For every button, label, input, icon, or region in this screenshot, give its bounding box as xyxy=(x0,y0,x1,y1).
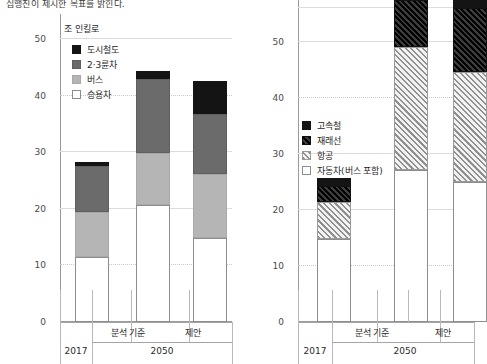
right-bar-2050-proposal[interactable] xyxy=(453,0,487,322)
left-legend-item-seungyongcha[interactable]: 승용차 xyxy=(72,87,119,102)
left-bar-2017-seg-beoseu xyxy=(75,212,109,257)
left-bar-baseline-seg-ireuncha xyxy=(136,79,170,153)
left-legend-item-dosicheoldo[interactable]: 도시철도 xyxy=(72,42,119,57)
left-group-sep-0 xyxy=(60,322,61,364)
right-xtick-sep-0 xyxy=(298,290,299,322)
right-bar-2017-seg-hanggong xyxy=(317,202,351,239)
right-bar-2017-seg-gosokcheol xyxy=(317,178,351,186)
left-bar-baseline-seg-seungyongcha xyxy=(136,205,170,322)
right-bar-proposal-seg-jadongcha xyxy=(453,182,487,322)
right-gridline-50 xyxy=(298,41,474,42)
left-bar-2050-baseline[interactable] xyxy=(136,71,170,322)
legend-swatch-ireuncha-icon xyxy=(72,60,81,69)
left-bar-2050-proposal[interactable] xyxy=(193,81,227,322)
right-ytick-0: 0 xyxy=(256,317,284,327)
left-xtick-sep-1 xyxy=(92,290,93,322)
left-legend-item-ireuncha[interactable]: 2·3륜차 xyxy=(72,57,119,72)
right-legend-item-hanggong[interactable]: 항공 xyxy=(302,148,383,163)
right-ytick-10: 10 xyxy=(256,261,284,271)
right-bar-proposal-seg-jaeraeseon xyxy=(453,8,487,72)
right-bar-proposal-seg-gosokcheol xyxy=(453,0,487,8)
left-legend-label-dosicheoldo: 도시철도 xyxy=(87,43,119,56)
right-bar-2050-baseline[interactable] xyxy=(394,0,428,322)
right-bar-2017-seg-jaeraeseon xyxy=(317,186,351,202)
left-gridline-50 xyxy=(60,38,232,39)
right-bar-baseline-seg-hanggong xyxy=(394,47,428,170)
right-group-sep-0 xyxy=(298,322,299,364)
left-group-label-2017: 2017 xyxy=(60,346,92,356)
left-ytick-10: 10 xyxy=(18,260,46,270)
left-bar-proposal-seg-ireuncha xyxy=(193,114,227,174)
left-group-divider xyxy=(92,342,232,343)
right-bar-baseline-seg-jaeraeseon xyxy=(394,0,428,47)
left-xtick-sep-2 xyxy=(131,290,132,322)
right-bar-baseline-seg-jadongcha xyxy=(394,170,428,322)
left-legend: 도시철도 2·3륜차 버스 승용차 xyxy=(72,42,119,102)
left-bar-baseline-seg-beoseu xyxy=(136,153,170,205)
left-legend-label-beoseu: 버스 xyxy=(87,73,103,86)
right-y-axis xyxy=(298,0,299,322)
right-group-label-2017: 2017 xyxy=(298,346,332,356)
right-xtick-sep-1 xyxy=(332,290,333,322)
left-bar-proposal-seg-seungyongcha xyxy=(193,238,227,322)
right-group-label-2050: 2050 xyxy=(365,346,445,356)
left-group-label-2050: 2050 xyxy=(122,346,202,356)
right-ytick-40: 40 xyxy=(256,93,284,103)
right-legend-label-hanggong: 항공 xyxy=(317,149,333,162)
left-xtick-sep-0 xyxy=(60,290,61,322)
right-xtick-sep-2 xyxy=(377,290,378,322)
left-legend-label-seungyongcha: 승용차 xyxy=(87,88,111,101)
left-bar-2017-seg-ireuncha xyxy=(75,166,109,212)
right-gridline-40 xyxy=(298,97,474,98)
right-legend-item-jadongcha[interactable]: 자동차(버스 포함) xyxy=(302,163,383,178)
legend-swatch-jaeraeseon-icon xyxy=(302,136,311,145)
left-ytick-30: 30 xyxy=(18,147,46,157)
right-gridline-56 xyxy=(298,7,474,8)
legend-swatch-seungyongcha-icon xyxy=(72,90,81,99)
left-axis-base xyxy=(60,322,232,323)
right-bar-2017[interactable] xyxy=(317,178,351,322)
right-xlabel-proposal: 제안 xyxy=(418,326,468,339)
right-legend-label-gosokcheol: 고속철 xyxy=(317,119,341,132)
legend-swatch-jadongcha-icon xyxy=(302,166,311,175)
left-bar-proposal-seg-dosicheoldo xyxy=(193,81,227,114)
legend-swatch-hanggong-icon xyxy=(302,151,311,160)
right-group-sep-1 xyxy=(474,322,475,364)
right-legend-label-jaeraeseon: 재래선 xyxy=(317,134,341,147)
left-ytick-40: 40 xyxy=(18,91,46,101)
right-axis-base xyxy=(298,322,474,323)
left-legend-item-beoseu[interactable]: 버스 xyxy=(72,72,119,87)
chart-domestic-passenger: 조 인킬로 xyxy=(0,0,240,364)
left-bar-proposal-seg-beoseu xyxy=(193,174,227,238)
right-legend-item-gosokcheol[interactable]: 고속철 xyxy=(302,118,383,133)
left-xtick-sep-3 xyxy=(189,290,190,322)
left-xlabel-baseline: 분석 기준 xyxy=(96,326,160,339)
left-group-sep-1 xyxy=(232,322,233,364)
right-xlabel-baseline: 분석 기준 xyxy=(340,326,404,339)
legend-swatch-gosokcheol-icon xyxy=(302,121,311,130)
right-ytick-50: 50 xyxy=(256,37,284,47)
left-ytick-20: 20 xyxy=(18,204,46,214)
chart-intercity-passenger: 50 40 30 20 10 0 고속철 재래선 항공 자동차(버스 포함) xyxy=(240,0,479,364)
left-legend-label-ireuncha: 2·3륜차 xyxy=(87,58,117,71)
left-ytick-50: 50 xyxy=(18,34,46,44)
left-ytick-0: 0 xyxy=(18,317,46,327)
right-ytick-30: 30 xyxy=(256,149,284,159)
legend-swatch-beoseu-icon xyxy=(72,75,81,84)
legend-swatch-dosicheoldo-icon xyxy=(72,45,81,54)
right-xtick-sep-4 xyxy=(440,290,441,322)
left-cat-sep-0 xyxy=(92,322,93,364)
right-ytick-20: 20 xyxy=(256,205,284,215)
right-group-divider xyxy=(332,342,474,343)
right-legend-item-jaeraeseon[interactable]: 재래선 xyxy=(302,133,383,148)
right-xtick-sep-3 xyxy=(408,290,409,322)
left-bar-2017-seg-dosicheoldo xyxy=(75,162,109,166)
right-bar-2017-seg-jadongcha xyxy=(317,239,351,322)
left-bar-baseline-seg-dosicheoldo xyxy=(136,71,170,79)
left-y-axis xyxy=(60,14,61,322)
left-xlabel-proposal: 제안 xyxy=(168,326,218,339)
right-legend: 고속철 재래선 항공 자동차(버스 포함) xyxy=(302,118,383,178)
right-legend-label-jadongcha: 자동차(버스 포함) xyxy=(317,164,383,177)
right-bar-proposal-seg-hanggong xyxy=(453,72,487,182)
